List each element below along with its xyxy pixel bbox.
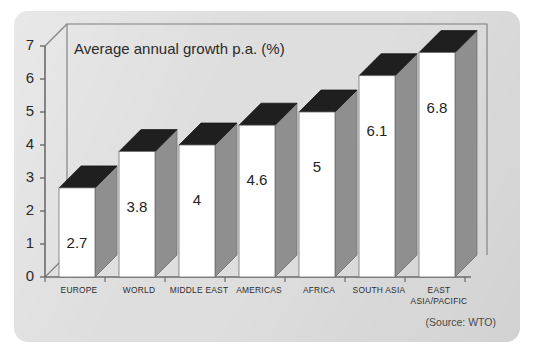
bar-column: 4.6 bbox=[239, 103, 297, 277]
y-tick-label: 7 bbox=[26, 36, 34, 53]
bar-side-face bbox=[155, 130, 177, 277]
bar-column: 5 bbox=[299, 90, 357, 277]
y-tick-label: 6 bbox=[26, 69, 34, 86]
bar-side-face bbox=[455, 31, 477, 277]
bar-value-label: 3.8 bbox=[127, 198, 148, 215]
bar-column: 6.1 bbox=[359, 54, 417, 277]
bar-side-face bbox=[395, 54, 417, 277]
chart-title: Average annual growth p.a. (%) bbox=[74, 40, 285, 57]
y-tick-label: 5 bbox=[26, 102, 34, 119]
category-label: AFRICA bbox=[303, 285, 335, 295]
bar-series: 2.73.844.656.16.8 bbox=[59, 31, 477, 277]
category-labels: EUROPEWORLDMIDDLE EASTAMERICASAFRICASOUT… bbox=[61, 285, 468, 306]
category-label: SOUTH ASIA bbox=[353, 285, 406, 295]
bar-column: 4 bbox=[179, 123, 237, 277]
y-tick-label: 0 bbox=[26, 267, 34, 284]
bar-value-label: 4 bbox=[193, 191, 201, 208]
y-tick-label: 2 bbox=[26, 201, 34, 218]
bar-value-label: 6.8 bbox=[427, 99, 448, 116]
category-label: EAST bbox=[428, 285, 451, 295]
bar-front-face bbox=[59, 188, 95, 277]
y-tick-label: 4 bbox=[26, 135, 34, 152]
bar-side-face bbox=[335, 90, 357, 277]
bar-column: 6.8 bbox=[419, 31, 477, 277]
frame-diagonal-top bbox=[45, 24, 67, 46]
bar-value-label: 2.7 bbox=[67, 234, 88, 251]
bar-front-face bbox=[359, 76, 395, 277]
bar-column: 2.7 bbox=[59, 166, 117, 277]
bar-value-label: 5 bbox=[313, 158, 321, 175]
bar-front-face bbox=[239, 125, 275, 277]
bar-chart: 01234567 2.73.844.656.16.8 EUROPEWORLDMI… bbox=[0, 0, 534, 353]
bar-front-face bbox=[299, 112, 335, 277]
category-label: AMERICAS bbox=[236, 285, 282, 295]
y-tick-label: 1 bbox=[26, 234, 34, 251]
bar-value-label: 6.1 bbox=[367, 122, 388, 139]
y-axis-ticks: 01234567 bbox=[26, 36, 45, 284]
bar-side-face bbox=[275, 103, 297, 277]
bar-value-label: 4.6 bbox=[247, 171, 268, 188]
source-note: (Source: WTO) bbox=[426, 316, 496, 328]
category-label: MIDDLE EAST bbox=[170, 285, 229, 295]
bar-front-face bbox=[179, 145, 215, 277]
bar-side-face bbox=[215, 123, 237, 277]
category-label: EUROPE bbox=[61, 285, 98, 295]
category-label: WORLD bbox=[123, 285, 155, 295]
bar-front-face bbox=[419, 53, 455, 277]
category-label: ASIA/PACIFIC bbox=[411, 296, 468, 306]
y-tick-label: 3 bbox=[26, 168, 34, 185]
figure-root: 01234567 2.73.844.656.16.8 EUROPEWORLDMI… bbox=[0, 0, 534, 353]
bar-column: 3.8 bbox=[119, 130, 177, 277]
